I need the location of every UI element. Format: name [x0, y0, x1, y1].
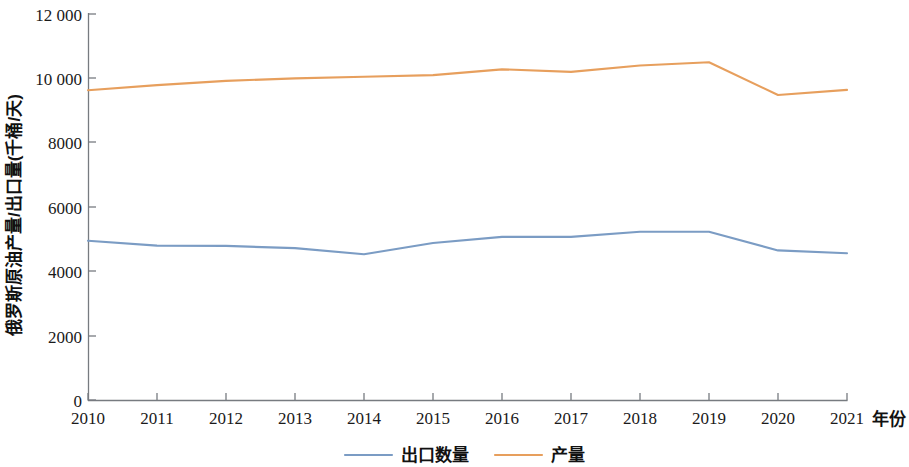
y-axis-title: 俄罗斯原油产量/出口量(千桶/天) [4, 94, 24, 337]
x-tick-label: 2010 [71, 409, 105, 428]
legend-label-production: 产量 [551, 445, 585, 465]
legend-label-export: 出口数量 [401, 445, 469, 465]
series-line-export [88, 232, 847, 255]
x-tick-label: 2015 [416, 409, 450, 428]
x-axis-title: 年份 [872, 409, 907, 429]
x-tick-label: 2017 [554, 409, 589, 428]
x-tick-label: 2011 [140, 409, 173, 428]
line-chart-svg: 俄罗斯原油产量/出口量(千桶/天) 12 000 10 000 8000 600… [0, 0, 909, 467]
y-tick-label: 8000 [48, 134, 82, 153]
y-tick-label: 2000 [48, 328, 82, 347]
x-tick-label: 2019 [692, 409, 726, 428]
series-line-production [88, 62, 847, 95]
y-tick-label: 6000 [48, 199, 82, 218]
y-tick-label: 10 000 [35, 70, 82, 89]
chart-figure: 俄罗斯原油产量/出口量(千桶/天) 12 000 10 000 8000 600… [0, 0, 909, 467]
x-tick-label: 2020 [761, 409, 795, 428]
x-tick-label: 2021 [830, 409, 864, 428]
y-axis-ticks [89, 14, 97, 400]
y-tick-label: 12 000 [35, 6, 82, 25]
x-tick-label: 2012 [209, 409, 243, 428]
chart-legend: 出口数量 产量 [345, 445, 585, 465]
x-tick-label: 2013 [278, 409, 312, 428]
x-axis-ticks [88, 393, 847, 401]
x-tick-label: 2018 [623, 409, 657, 428]
x-tick-label: 2016 [485, 409, 519, 428]
y-tick-label: 4000 [48, 263, 82, 282]
x-tick-label: 2014 [347, 409, 382, 428]
